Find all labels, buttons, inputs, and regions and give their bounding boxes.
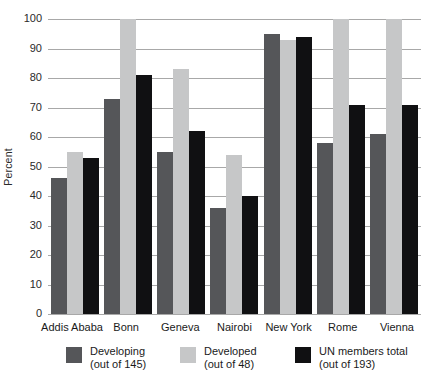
bar-developing: [264, 34, 280, 314]
bar-group: [317, 19, 365, 314]
legend-sublabel: (out of 193): [319, 358, 408, 371]
legend-label: UN members total: [319, 345, 408, 358]
legend-text: Developing(out of 145): [90, 345, 146, 370]
y-tick-label: 30: [0, 219, 42, 231]
y-tick-label: 0: [0, 307, 42, 319]
bar-un-members-total: [83, 158, 99, 314]
bar-developed: [386, 19, 402, 314]
bar-un-members-total: [242, 196, 258, 314]
legend-sublabel: (out of 145): [90, 358, 146, 371]
legend-label: Developing: [90, 345, 146, 358]
bar-developing: [370, 134, 386, 314]
bar-un-members-total: [189, 131, 205, 314]
legend-label: Developed: [204, 345, 257, 358]
bar-developing: [157, 152, 173, 314]
legend-item: Developed(out of 48): [180, 345, 257, 370]
y-tick-label: 10: [0, 278, 42, 290]
category-label-cell: Nairobi: [210, 321, 258, 333]
y-tick-label: 80: [0, 71, 42, 83]
category-label-cell: New York: [265, 321, 313, 333]
legend-swatch-un-members-total: [295, 347, 311, 363]
bar-developed: [67, 152, 83, 314]
bar-group: [264, 19, 312, 314]
category-label-cell: Bonn: [102, 321, 150, 333]
y-tick-label: 60: [0, 130, 42, 142]
bar-developed: [280, 40, 296, 314]
bar-developing: [210, 208, 226, 314]
bar-group: [210, 19, 258, 314]
y-tick-label: 100: [0, 12, 42, 24]
category-label: Bonn: [113, 321, 139, 333]
bar-un-members-total: [296, 37, 312, 314]
category-label-cell: Geneva: [156, 321, 204, 333]
legend-text: UN members total(out of 193): [319, 345, 408, 370]
bar-un-members-total: [349, 105, 365, 314]
category-label-cell: Addis Ababa: [48, 321, 96, 333]
bar-group: [104, 19, 152, 314]
legend-item: UN members total(out of 193): [295, 345, 408, 370]
y-tick-label: 90: [0, 42, 42, 54]
category-label-cell: Rome: [319, 321, 367, 333]
bar-developed: [120, 19, 136, 314]
bar-un-members-total: [136, 75, 152, 314]
category-label: Rome: [328, 321, 357, 333]
bar-chart: Percent 0102030405060708090100 Addis Aba…: [0, 0, 426, 380]
y-tick-label: 50: [0, 160, 42, 172]
category-label: Vienna: [380, 321, 414, 333]
bar-un-members-total: [402, 105, 418, 314]
bars-layer: [51, 19, 418, 314]
y-tick-label: 40: [0, 189, 42, 201]
bar-developing: [51, 178, 67, 314]
bar-developing: [104, 99, 120, 314]
legend-item: Developing(out of 145): [66, 345, 146, 370]
bar-developed: [173, 69, 189, 314]
y-tick-label: 20: [0, 248, 42, 260]
category-label: New York: [265, 321, 311, 333]
y-tick-label: 70: [0, 101, 42, 113]
category-labels: Addis AbabaBonnGenevaNairobiNew YorkRome…: [48, 321, 421, 333]
legend: Developing(out of 145)Developed(out of 4…: [0, 345, 426, 380]
bar-developed: [226, 155, 242, 314]
category-label-cell: Vienna: [373, 321, 421, 333]
legend-swatch-developed: [180, 347, 196, 363]
legend-text: Developed(out of 48): [204, 345, 257, 370]
bar-group: [370, 19, 418, 314]
bar-group: [51, 19, 99, 314]
bar-developed: [333, 19, 349, 314]
bar-developing: [317, 143, 333, 314]
category-label: Nairobi: [217, 321, 252, 333]
category-label: Geneva: [161, 321, 200, 333]
gridline: [48, 314, 421, 315]
category-label: Addis Ababa: [41, 321, 103, 333]
plot-area: [48, 19, 421, 314]
legend-swatch-developing: [66, 347, 82, 363]
legend-sublabel: (out of 48): [204, 358, 257, 371]
bar-group: [157, 19, 205, 314]
